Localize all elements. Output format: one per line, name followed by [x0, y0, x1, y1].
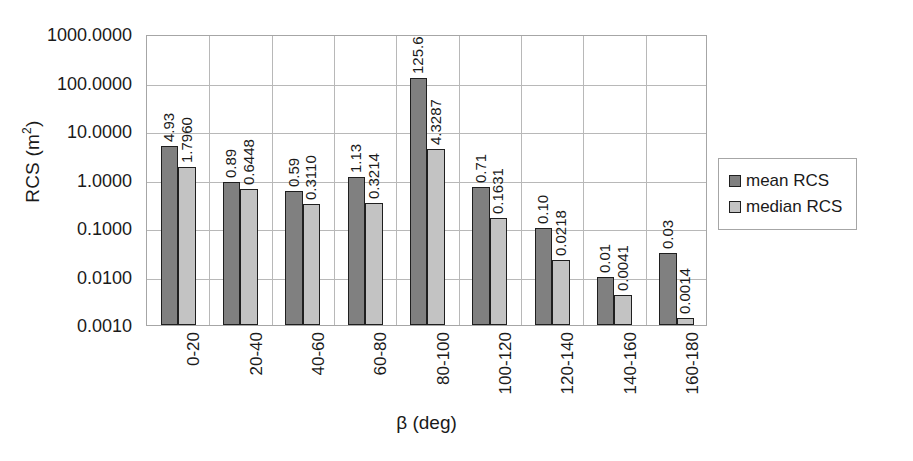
bar-value-label: 0.71 — [473, 154, 488, 183]
bar-value-label: 0.03 — [660, 220, 675, 249]
legend-item[interactable]: median RCS — [729, 194, 842, 220]
bar-value-label: 1.13 — [348, 144, 363, 173]
bar-value-label: 0.0041 — [615, 245, 630, 291]
bar-mean-rcs — [285, 191, 302, 325]
y-axis-tick-label: 1.0000 — [77, 172, 132, 190]
y-axis-tick-label: 0.0100 — [77, 269, 132, 287]
bar-group: 0.710.1631 — [459, 36, 521, 325]
y-axis-tick-label: 0.0010 — [77, 317, 132, 335]
y-axis-tick-label: 0.1000 — [77, 220, 132, 238]
bar-value-label: 125.6 — [410, 36, 425, 74]
bar-value-label: 0.6448 — [241, 139, 256, 185]
bar-value-label: 1.7960 — [179, 117, 194, 163]
plot-area: 4.931.79600.890.64480.590.31101.130.3214… — [146, 35, 707, 326]
x-axis-tick-label: 160-180 — [684, 332, 701, 394]
bar-group: 0.010.0041 — [583, 36, 645, 325]
bar-median-rcs — [178, 167, 195, 325]
bar-value-label: 0.59 — [286, 157, 301, 186]
legend-swatch-median-rcs — [729, 201, 741, 213]
chart-legend: mean RCSmedian RCS — [718, 158, 857, 230]
bar-median-rcs — [614, 295, 631, 325]
rcs-bar-chart: RCS (m2) 1000.0000100.000010.00001.00000… — [0, 0, 913, 461]
y-axis-tick-label: 100.0000 — [57, 75, 132, 93]
bar-mean-rcs — [410, 78, 427, 325]
bar-median-rcs — [427, 149, 444, 325]
bar-value-label: 0.10 — [535, 195, 550, 224]
bar-median-rcs — [240, 189, 257, 325]
bar-value-label: 0.3214 — [366, 154, 381, 200]
bar-mean-rcs — [348, 177, 365, 325]
bar-mean-rcs — [659, 253, 676, 325]
bar-mean-rcs — [472, 187, 489, 325]
bar-value-label: 0.0218 — [553, 210, 568, 256]
x-axis-tick-label: 0-20 — [185, 332, 202, 366]
x-axis-tick-label: 40-60 — [310, 332, 327, 375]
bar-group: 1.130.3214 — [334, 36, 396, 325]
bar-group: 0.590.3110 — [272, 36, 334, 325]
x-axis-tick-label: 20-40 — [248, 332, 265, 375]
bar-group: 0.100.0218 — [521, 36, 583, 325]
bar-value-label: 0.1631 — [490, 168, 505, 214]
bar-median-rcs — [677, 318, 694, 325]
x-axis-tick-label: 120-140 — [559, 332, 576, 394]
bar-median-rcs — [552, 260, 569, 325]
bar-value-label: 0.0014 — [677, 268, 692, 314]
bar-value-label: 4.3287 — [428, 99, 443, 145]
y-axis-tick-labels: 1000.0000100.000010.00001.00000.10000.01… — [10, 35, 138, 326]
x-axis-tick-label: 60-80 — [372, 332, 389, 375]
legend-item-label: median RCS — [746, 197, 842, 217]
bar-group: 125.64.3287 — [396, 36, 458, 325]
x-axis-title: β (deg) — [146, 412, 707, 434]
bar-mean-rcs — [597, 277, 614, 326]
bar-mean-rcs — [223, 182, 240, 325]
legend-item[interactable]: mean RCS — [729, 168, 842, 194]
bar-mean-rcs — [535, 228, 552, 325]
bar-median-rcs — [365, 203, 382, 325]
bar-value-label: 4.93 — [161, 113, 176, 142]
x-axis-tick-labels: 0-2020-4040-6060-8080-100100-120120-1401… — [146, 330, 707, 410]
bar-value-label: 0.3110 — [303, 155, 318, 200]
bar-median-rcs — [490, 218, 507, 325]
x-axis-tick-label: 100-120 — [497, 332, 514, 394]
bar-median-rcs — [303, 204, 320, 325]
y-axis-tick-label: 10.0000 — [67, 123, 132, 141]
bar-value-label: 0.01 — [597, 243, 612, 272]
bar-mean-rcs — [161, 146, 178, 325]
bar-group: 0.030.0014 — [646, 36, 708, 325]
x-axis-tick-label: 80-100 — [435, 332, 452, 385]
bar-group: 4.931.7960 — [147, 36, 209, 325]
legend-swatch-mean-rcs — [729, 175, 741, 187]
x-axis-tick-label: 140-160 — [622, 332, 639, 394]
bar-group: 0.890.6448 — [209, 36, 271, 325]
y-axis-tick-label: 1000.0000 — [47, 26, 132, 44]
bar-value-label: 0.89 — [223, 149, 238, 178]
legend-item-label: mean RCS — [746, 171, 829, 191]
